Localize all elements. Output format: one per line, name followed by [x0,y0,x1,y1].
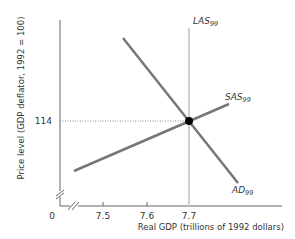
sas-curve [74,104,229,171]
equilibrium-point [185,117,193,125]
chart-canvas: 114 0 7.5 7.6 7.7 Real GDP (trillions of… [0,0,295,239]
las-label: LAS99 [193,16,218,28]
x-tick-label-7-7: 7.7 [182,211,196,221]
ad-curve [123,38,238,183]
x-tick-label-7-6: 7.6 [140,211,155,221]
ad-label: AD99 [231,185,253,197]
y-tick-label-114: 114 [35,116,52,126]
sas-label: SAS99 [225,92,251,104]
origin-label: 0 [49,211,55,221]
x-axis-title: Real GDP (trillions of 1992 dollars) [138,222,284,232]
y-axis-title: Price level (GDP deflator, 1992 = 100) [16,17,26,180]
x-tick-label-7-5: 7.5 [96,211,110,221]
